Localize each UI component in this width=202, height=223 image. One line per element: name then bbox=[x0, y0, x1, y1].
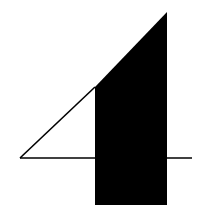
figure-canvas bbox=[0, 0, 202, 223]
numeral-four-figure bbox=[0, 0, 202, 223]
